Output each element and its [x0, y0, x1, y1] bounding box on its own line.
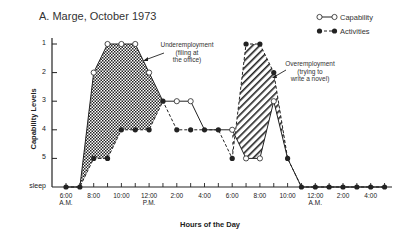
y-tick-label: 5: [16, 153, 46, 160]
chart-title: A. Marge, October 1973: [39, 10, 156, 22]
x-tick-label: 10:00: [106, 192, 136, 199]
filled-circle-dashed-line-icon: [316, 27, 338, 35]
underemployment-annotation: Underemployment(filing atthe office): [152, 41, 222, 64]
annotation-line: the office): [152, 56, 222, 64]
x-tick-label: 10:00: [273, 192, 303, 199]
x-tick-label: 6:00: [217, 192, 247, 199]
x-tick-label: 12:00P.M.: [134, 192, 164, 206]
open-circle-line-icon: [316, 13, 338, 21]
x-tick-label: 4:00: [190, 192, 220, 199]
y-tick-label: 2: [16, 68, 46, 75]
y-tick-label: 4: [16, 125, 46, 132]
legend-label-activities: Activities: [340, 27, 370, 36]
legend-item-activities: Activities: [316, 24, 373, 38]
x-tick-label: 8:00: [79, 192, 109, 199]
annotation-line: (trying to: [275, 68, 345, 76]
x-tick-label: 4:00: [356, 192, 386, 199]
y-tick-label: 3: [16, 96, 46, 103]
y-tick-label: 1: [16, 39, 46, 46]
annotation-line: Overemployment: [275, 60, 345, 68]
x-tick-label: 2:00: [162, 192, 192, 199]
employment-regions: [80, 44, 302, 187]
overemployment-annotation: Overemployment(trying towrite a novel): [275, 60, 345, 83]
x-axis-label: Hours of the Day: [180, 220, 240, 229]
annotation-line: (filing at: [152, 49, 222, 57]
x-tick-label: 6:00A.M.: [51, 192, 81, 206]
x-tick-label: 2:00: [328, 192, 358, 199]
legend-label-capability: Capability: [340, 13, 373, 22]
legend: Capability Activities: [316, 10, 373, 38]
x-tick-label: 12:00A.M.: [300, 192, 330, 206]
y-tick-label: sleep: [16, 182, 46, 189]
annotation-line: Underemployment: [152, 41, 222, 49]
annotation-line: write a novel): [275, 75, 345, 83]
legend-item-capability: Capability: [316, 10, 373, 24]
x-tick-label: 8:00: [245, 192, 275, 199]
